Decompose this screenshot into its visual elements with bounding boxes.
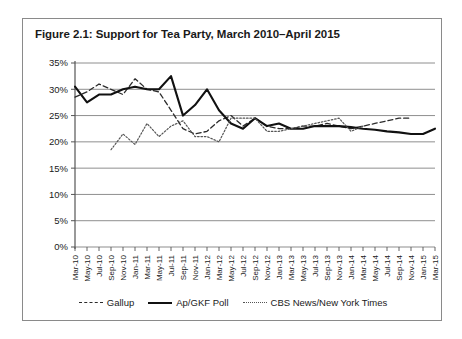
x-axis-tick-label: Sep-10 xyxy=(107,254,116,280)
x-axis-tick-label: Mar-13 xyxy=(287,254,296,280)
x-axis-tick-label: Nov-10 xyxy=(119,254,128,280)
legend-item-gallup: Gallup xyxy=(79,297,134,308)
x-axis-tick-label: Sep-11 xyxy=(179,254,188,280)
legend-item-cbs-nyt: CBS News/New York Times xyxy=(243,297,388,308)
x-axis-tick-label: Jan-14 xyxy=(347,254,356,279)
y-axis-tick-label: 0% xyxy=(54,241,68,252)
x-axis-tick-label: Jan-13 xyxy=(275,254,284,279)
y-axis-tick-label: 20% xyxy=(49,136,69,147)
y-axis-tick-label: 30% xyxy=(49,84,69,95)
x-axis-tick-label: Sep-14 xyxy=(395,254,404,280)
series-line xyxy=(111,118,363,150)
x-axis-tick-label: Jul-11 xyxy=(167,254,176,276)
x-axis-tick-label: May-13 xyxy=(299,254,308,281)
x-axis-tick-label: Sep-13 xyxy=(323,254,332,280)
x-axis-tick-label: Jul-10 xyxy=(95,254,104,276)
y-axis-tick-label: 5% xyxy=(54,215,68,226)
x-axis-tick-label: Mar-15 xyxy=(431,254,440,280)
x-axis-tick-label: May-14 xyxy=(371,254,380,281)
x-axis-tick-label: Jul-13 xyxy=(311,254,320,276)
series-line xyxy=(75,76,435,134)
x-axis-tick-label: Nov-11 xyxy=(191,254,200,280)
x-axis-tick-label: May-11 xyxy=(155,254,164,281)
data-series-group xyxy=(75,76,435,150)
x-axis-tick-label: May-10 xyxy=(83,254,92,281)
y-axis-tick-label: 15% xyxy=(49,163,69,174)
x-axis-tick-marks xyxy=(75,247,435,251)
y-axis-tick-label: 10% xyxy=(49,189,69,200)
x-axis-tick-label: Nov-14 xyxy=(407,254,416,280)
solid-line-icon xyxy=(148,299,172,307)
y-axis-tick-label: 25% xyxy=(49,110,69,121)
x-axis-tick-labels: Mar-10May-10Jul-10Sep-10Nov-10Jan-11Mar-… xyxy=(71,254,440,281)
x-axis-tick-label: May-12 xyxy=(227,254,236,281)
legend-label: CBS News/New York Times xyxy=(271,297,388,308)
legend-item-ap-gfk: Ap/GKF Poll xyxy=(148,297,228,308)
x-axis-tick-label: Mar-10 xyxy=(71,254,80,280)
x-axis-tick-label: Jul-12 xyxy=(239,254,248,276)
x-axis-tick-label: Nov-13 xyxy=(335,254,344,280)
x-axis-tick-label: Nov-12 xyxy=(263,254,272,280)
x-axis-tick-label: Sep-12 xyxy=(251,254,260,280)
y-axis-tick-labels: 0%5%10%15%20%25%30%35% xyxy=(49,57,69,252)
legend-label: Gallup xyxy=(107,297,134,308)
chart-plot: 0%5%10%15%20%25%30%35% Mar-10May-10Jul-1… xyxy=(23,19,443,322)
y-axis-tick-label: 35% xyxy=(49,57,69,68)
dotted-line-icon xyxy=(243,299,267,307)
series-line xyxy=(75,79,411,134)
chart-legend: Gallup Ap/GKF Poll CBS News/New York Tim… xyxy=(23,297,443,308)
x-axis-tick-label: Mar-11 xyxy=(143,254,152,279)
x-axis-tick-label: Jan-12 xyxy=(203,254,212,279)
x-axis-tick-label: Jan-15 xyxy=(419,254,428,279)
figure-container: Figure 2.1: Support for Tea Party, March… xyxy=(22,18,442,321)
x-axis-tick-label: Jan-11 xyxy=(131,254,140,278)
x-axis-tick-label: Mar-12 xyxy=(215,254,224,280)
legend-label: Ap/GKF Poll xyxy=(176,297,228,308)
dashed-line-icon xyxy=(79,299,103,307)
x-axis-tick-label: Jul-14 xyxy=(383,254,392,276)
x-axis-tick-label: Mar-14 xyxy=(359,254,368,280)
